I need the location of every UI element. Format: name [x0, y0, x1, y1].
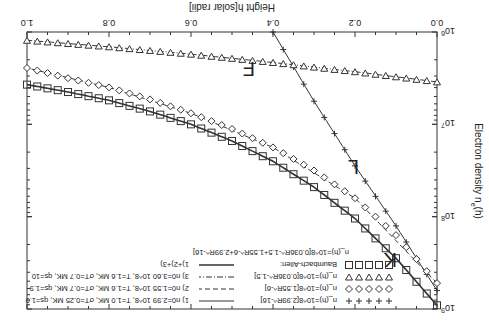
legend-line-3: 3) n0=3.60 10^8, T=1.6 MK, σT=0.7 MK, qs…	[32, 272, 189, 281]
legend-line-2: 2) n0=1.55 10^8, T=1.6 MK, σT=0.7 MK, qs…	[30, 284, 189, 293]
svg-text:0.4: 0.4	[267, 18, 280, 28]
svg-text:0.0: 0.0	[431, 18, 444, 28]
svg-text:109: 109	[441, 303, 455, 315]
legend-square: Baumbach-Allen:	[280, 260, 337, 269]
legend-line-1: 1) n0=2.99 10^8, T=1.0 MK, σT=0.25 MK, q…	[25, 296, 189, 305]
data-series	[24, 29, 441, 309]
chart-rotated: 0.00.20.40.60.81.0106107108109 Height h[…	[0, 0, 489, 328]
x-axis-label: Height h[solar radii]	[189, 2, 275, 13]
legend-square-formula: n_(h)=10^8[0.036R^-1.5+1.55R^-6+2.99R^-1…	[193, 248, 349, 257]
annotation-l: L	[348, 156, 359, 178]
annotation-f: F	[243, 58, 255, 80]
legend-line-4: 1)+2)+3)	[160, 260, 189, 269]
y-axis-label: Electron density ne(h)	[471, 123, 485, 219]
legend-plus: n_(h)=10^8[2.99R^-16]	[261, 296, 337, 305]
legend-triangle: n_(h)=10^8[0.036R^-1.5]	[254, 272, 337, 281]
legend-diamond: n_(h)=10^8[1.55R^-6]	[265, 284, 337, 293]
svg-text:0.2: 0.2	[349, 18, 362, 28]
legend: n_(h)=10^8[2.99R^-16] n_(h)=10^8[1.55R^-…	[25, 248, 392, 305]
svg-text:108: 108	[441, 211, 455, 223]
svg-text:1.0: 1.0	[21, 18, 34, 28]
svg-text:107: 107	[441, 118, 455, 130]
electron-density-chart: 0.00.20.40.60.81.0106107108109 Height h[…	[0, 0, 489, 328]
svg-text:0.6: 0.6	[185, 18, 198, 28]
svg-text:0.8: 0.8	[103, 18, 116, 28]
